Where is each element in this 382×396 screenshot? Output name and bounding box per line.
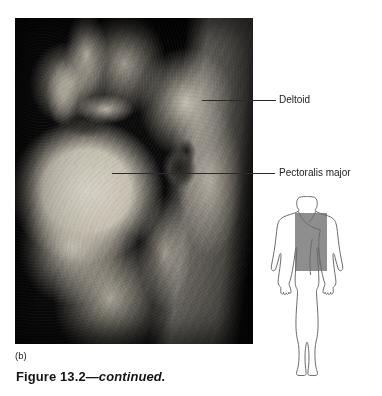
- orientation-highlight-rect: [295, 213, 327, 271]
- callout-label-pectoralis-major: Pectoralis major: [279, 167, 351, 179]
- callout-label-deltoid: Deltoid: [279, 94, 310, 106]
- panel-label-b: (b): [15, 350, 27, 361]
- caption-figure-number: Figure 13.2: [16, 369, 86, 384]
- figure-caption: Figure 13.2—continued.: [16, 369, 166, 384]
- body-outline: [271, 197, 342, 376]
- body-orientation-diagram: [268, 193, 346, 381]
- photo-vignette-layer: [15, 18, 253, 344]
- caption-continued-text: —continued.: [86, 369, 166, 384]
- dissection-photograph: [15, 18, 253, 344]
- leader-line-deltoid: [202, 100, 276, 101]
- leader-line-pectoralis-major: [112, 173, 275, 174]
